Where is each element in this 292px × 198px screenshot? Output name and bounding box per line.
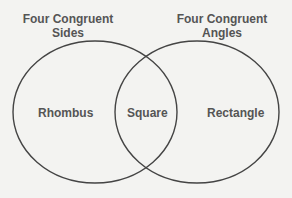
set-title-sides-line2: Sides bbox=[8, 26, 128, 40]
region-label-square: Square bbox=[127, 106, 168, 120]
set-title-angles-line1: Four Congruent bbox=[162, 12, 282, 26]
set-title-angles: Four Congruent Angles bbox=[162, 12, 282, 40]
venn-diagram: Four Congruent Sides Four Congruent Angl… bbox=[0, 0, 292, 198]
set-title-angles-line2: Angles bbox=[162, 26, 282, 40]
set-title-sides-line1: Four Congruent bbox=[8, 12, 128, 26]
region-label-rhombus: Rhombus bbox=[38, 106, 93, 120]
region-label-rectangle: Rectangle bbox=[207, 106, 264, 120]
set-title-sides: Four Congruent Sides bbox=[8, 12, 128, 40]
